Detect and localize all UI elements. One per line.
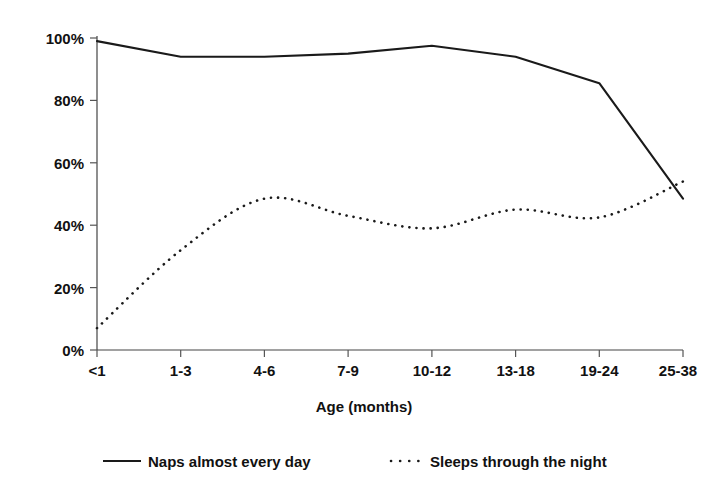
line-chart-canvas: 100% 80% 60% 40% 20% 0% <1 1-3 4-6 7-9 1… [0, 0, 716, 490]
y-tick-label-60: 60% [54, 155, 84, 172]
y-tick-label-80: 80% [54, 92, 84, 109]
y-tick-label-0: 0% [62, 342, 84, 359]
x-tick-label-2: 4-6 [254, 362, 276, 379]
y-tick-label-40: 40% [54, 217, 84, 234]
x-tick-label-0: <1 [88, 362, 105, 379]
chart-background [0, 0, 716, 490]
x-tick-label-6: 19-24 [580, 362, 619, 379]
x-tick-label-5: 13-18 [496, 362, 534, 379]
x-tick-label-4: 10-12 [413, 362, 451, 379]
chart-figure: 100% 80% 60% 40% 20% 0% <1 1-3 4-6 7-9 1… [0, 0, 716, 490]
x-tick-label-1: 1-3 [170, 362, 192, 379]
legend-label-sleeps-through-the-night: Sleeps through the night [430, 453, 607, 470]
y-tick-label-20: 20% [54, 280, 84, 297]
y-tick-label-100: 100% [46, 30, 84, 47]
x-axis-title: Age (months) [316, 398, 413, 415]
x-tick-label-3: 7-9 [337, 362, 359, 379]
legend-label-naps-almost-every-day: Naps almost every day [148, 453, 311, 470]
x-tick-label-7: 25-38 [659, 362, 697, 379]
